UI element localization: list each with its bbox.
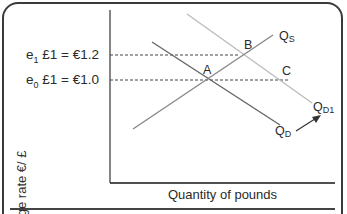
e1-label: e1 £1 = €1.2: [26, 47, 99, 68]
qs-label: QS: [279, 29, 295, 46]
qd-main: Q: [275, 124, 285, 138]
e0-text: £1 = €1.0: [39, 72, 99, 87]
e1-prefix: e: [26, 47, 34, 62]
qd-curve: [152, 42, 280, 125]
qs-main: Q: [279, 29, 289, 43]
qd-sub: D: [285, 129, 292, 139]
qd-label: QD: [275, 124, 291, 141]
qs-sub: S: [289, 34, 295, 44]
qd1-label: QD1: [313, 100, 334, 117]
e0-prefix: e: [26, 72, 34, 87]
e1-text: £1 = €1.2: [39, 47, 99, 62]
qd1-sub: D1: [323, 105, 335, 115]
point-b-label: B: [244, 38, 252, 52]
qd1-main: Q: [313, 100, 323, 114]
qd1-curve: [187, 14, 312, 103]
x-axis-label: Quantity of pounds: [110, 187, 335, 202]
y-axis-label: Exchange rate €/ £: [12, 120, 32, 214]
diagram-canvas: [0, 0, 347, 214]
e0-label: e0 £1 = €1.0: [26, 72, 99, 93]
shift-arrow-icon: [296, 115, 321, 131]
point-a-label: A: [203, 63, 211, 77]
point-c-label: C: [282, 64, 291, 78]
